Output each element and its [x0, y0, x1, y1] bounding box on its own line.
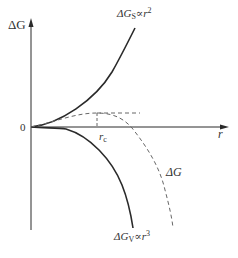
volume-energy-curve — [31, 127, 133, 228]
critical-radius-label: rc — [99, 130, 107, 144]
y-axis-arrow-icon — [29, 18, 34, 27]
total-energy-label: ΔG — [165, 165, 182, 179]
volume-energy-label: ΔGV∝r3 — [113, 229, 150, 244]
origin-label: 0 — [20, 121, 26, 133]
surface-energy-label: ΔGS∝r2 — [116, 6, 152, 21]
diagram-canvas: ΔG r 0 rc ΔGS∝r2 ΔGV∝r3 ΔG — [0, 0, 238, 258]
y-axis-label: ΔG — [8, 17, 26, 32]
surface-energy-curve — [31, 28, 135, 127]
free-energy-diagram: ΔG r 0 rc ΔGS∝r2 ΔGV∝r3 ΔG — [0, 0, 238, 258]
x-axis-label: r — [218, 127, 223, 141]
